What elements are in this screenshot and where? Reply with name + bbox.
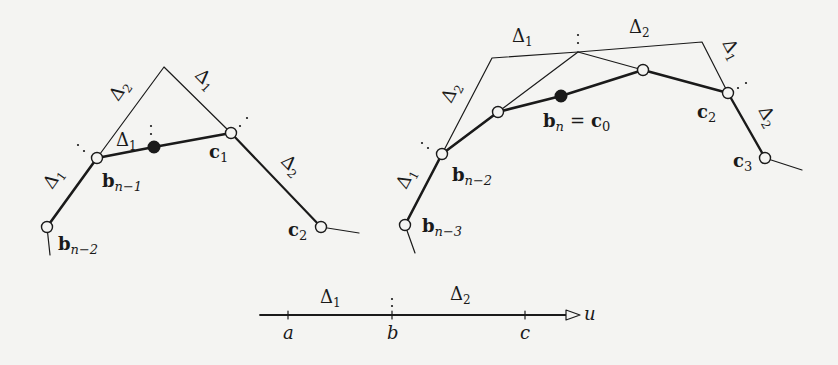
- label-left-bn1: bn−1: [102, 170, 142, 194]
- label-right-delta2-left: Δ2: [436, 78, 467, 107]
- axis-variable-label: u: [584, 303, 596, 324]
- node-left-c2: [316, 222, 327, 233]
- node-left-bn2: [42, 222, 53, 233]
- label-left-delta1-inner: Δ1: [116, 129, 137, 153]
- right-thin-top-mid-node-b: [578, 52, 643, 70]
- label-left-delta2-lower: Δ2: [275, 150, 307, 182]
- node-right-dot: [555, 90, 567, 102]
- label-left-delta2-upper: Δ2: [104, 75, 135, 106]
- right-segment-dot-node-b: [561, 70, 643, 96]
- axis-interval-label-2: Δ2: [450, 283, 471, 307]
- label-right-delta1-left: Δ1: [391, 164, 422, 193]
- axis-tick-label-c: c: [520, 322, 530, 343]
- bezier-spline-diagram: bn−2 bn−1 c1 c2 Δ1 Δ1 Δ2 Δ1 Δ2 bn−3 bn−2…: [0, 0, 838, 365]
- label-right-bn2: bn−2: [452, 164, 492, 188]
- node-right-c2: [723, 88, 734, 99]
- label-right-delta1-right: Δ1: [716, 35, 747, 64]
- right-segment-node-b-c2: [643, 70, 728, 93]
- label-right-delta2-top: Δ2: [629, 16, 650, 40]
- label-right-delta1-top: Δ1: [512, 25, 533, 49]
- axis-arrow-icon: [566, 310, 580, 320]
- label-left-bn2: bn−2: [58, 233, 98, 257]
- node-right-a: [493, 107, 504, 118]
- label-right-delta2-right: Δ2: [752, 102, 783, 131]
- node-right-bn2: [437, 149, 448, 160]
- left-segment-c1-c2: [231, 133, 321, 227]
- label-right-c3: c3: [733, 150, 752, 174]
- figure-canvas: bn−2 bn−1 c1 c2 Δ1 Δ1 Δ2 Δ1 Δ2 bn−3 bn−2…: [0, 0, 838, 365]
- right-segment-bn2-node-a: [442, 112, 498, 154]
- node-right-b: [638, 65, 649, 76]
- right-diagram: [405, 42, 802, 253]
- label-left-delta1-lower: Δ1: [38, 163, 69, 194]
- node-right-c3: [760, 153, 771, 164]
- node-left-dot: [148, 141, 160, 153]
- label-left-c2: c2: [288, 219, 307, 243]
- parameter-axis: [260, 310, 580, 320]
- label-left-c1: c1: [209, 141, 228, 165]
- axis-interval-label-1: Δ1: [320, 286, 341, 310]
- label-right-bn3: bn−3: [422, 215, 462, 239]
- label-right-c2: c2: [697, 101, 716, 125]
- node-right-bn3: [400, 220, 411, 231]
- node-left-bn1: [92, 153, 103, 164]
- axis-tick-label-b: b: [387, 322, 399, 343]
- axis-tick-label-a: a: [283, 322, 294, 343]
- label-left-delta1-upper: Δ1: [189, 64, 221, 96]
- right-control-polygon: [442, 42, 728, 154]
- label-bn-equals-c0: bn=c0: [543, 110, 610, 134]
- node-left-c1: [226, 128, 237, 139]
